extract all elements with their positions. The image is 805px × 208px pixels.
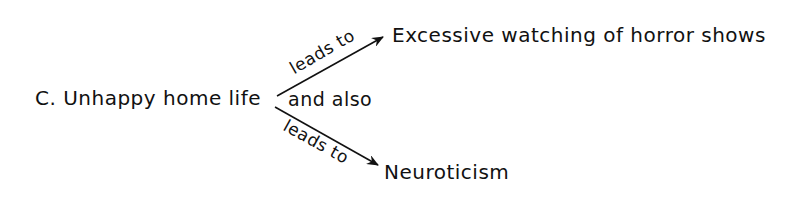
target-node-upper: Excessive watching of horror shows [392,23,766,47]
target-node-lower: Neuroticism [384,160,509,184]
connector-label: and also [288,88,372,110]
